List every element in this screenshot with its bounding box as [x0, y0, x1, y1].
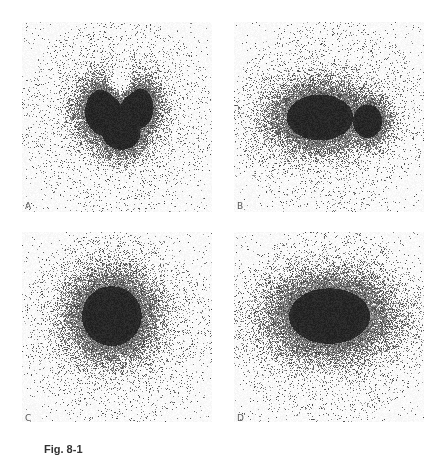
scan-image-d — [234, 232, 424, 422]
scan-image-b — [234, 22, 424, 212]
figure-caption: Fig. 8-1 — [44, 443, 83, 455]
panel-d: D — [234, 232, 424, 422]
panel-b: B — [234, 22, 424, 212]
panel-label-c: C — [25, 413, 31, 423]
panel-label-a: A — [25, 201, 31, 211]
scan-image-a — [22, 22, 212, 212]
scan-image-c — [22, 232, 212, 422]
panel-label-d: D — [237, 413, 244, 423]
panel-c: C — [22, 232, 212, 422]
panel-label-b: B — [237, 201, 243, 211]
panel-a: A — [22, 22, 212, 212]
